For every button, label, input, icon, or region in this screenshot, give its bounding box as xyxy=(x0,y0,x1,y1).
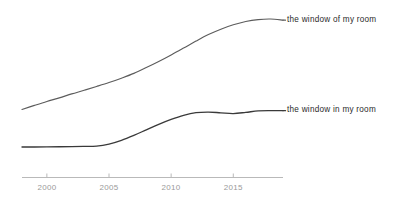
line-series-the-window-of-my-room[interactable] xyxy=(22,19,283,109)
line-series-the-window-in-my-room[interactable] xyxy=(22,111,283,147)
x-axis-tick-label: 2005 xyxy=(100,184,119,192)
x-axis-tick-label: 2015 xyxy=(224,184,243,192)
x-axis-tick-label: 2000 xyxy=(37,184,56,192)
series-lines xyxy=(22,19,283,147)
legend-connector-stubs xyxy=(283,20,286,110)
ngram-chart: 2000200520102015 the window of my room t… xyxy=(0,0,417,213)
series-label-the-window-of-my-room[interactable]: the window of my room xyxy=(287,16,376,24)
x-axis-tick-label: 2010 xyxy=(162,184,181,192)
series-label-the-window-in-my-room[interactable]: the window in my room xyxy=(287,106,376,114)
x-axis xyxy=(22,174,283,178)
x-axis-ticks xyxy=(47,174,233,178)
